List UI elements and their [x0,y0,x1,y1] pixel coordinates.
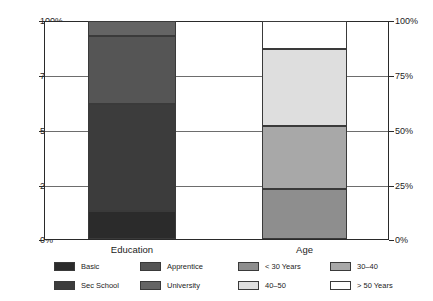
bar-segment-education-university[interactable] [88,21,176,36]
legend-swatch-sec-school [54,281,75,290]
legend-item-university[interactable]: University [140,280,200,291]
bar-education[interactable] [88,21,176,239]
bar-age[interactable] [262,21,347,239]
bar-segment-education-basic[interactable] [88,211,176,239]
bar-segment-age-30-40[interactable] [262,126,347,189]
bar-segment-age-30-years[interactable] [262,189,347,239]
bar-segment-age-50-years[interactable] [262,21,347,49]
legend-swatch-30-40 [330,262,351,271]
legend-item-30-40[interactable]: 30–40 [330,261,378,272]
plot-area [44,21,389,240]
tick-mark-right-0 [389,240,394,241]
legend-item-basic[interactable]: Basic [54,261,99,272]
legend-label-30-40: 30–40 [357,263,378,271]
legend-item-sec-school[interactable]: Sec School [54,280,119,291]
legend-item-apprentice[interactable]: Apprentice [140,261,203,272]
legend-item-over-50-years[interactable]: > 50 Years [330,280,393,291]
legend-swatch-under-30-years [238,262,259,271]
legend-label-under-30-years: < 30 Years [265,263,301,271]
legend-swatch-university [140,281,161,290]
x-label-age: Age [262,244,347,255]
x-label-education: Education [88,244,176,255]
y-tick-right-25: 25% [395,182,413,191]
legend-swatch-apprentice [140,262,161,271]
tick-mark-right-75 [389,76,394,77]
legend-item-40-50[interactable]: 40–50 [238,280,286,291]
legend-item-under-30-years[interactable]: < 30 Years [238,261,301,272]
y-tick-right-50: 50% [395,127,413,136]
legend-label-over-50-years: > 50 Years [357,282,393,290]
tick-mark-right-25 [389,186,394,187]
y-tick-right-75: 75% [395,72,413,81]
y-tick-right-100: 100% [395,17,418,26]
stacked-bar-chart: 100% 75% 50% 25% 0% 100% 75% 50% 25% [0,0,433,301]
legend-label-sec-school: Sec School [81,282,119,290]
legend-label-40-50: 40–50 [265,282,286,290]
bar-segment-age-40-50[interactable] [262,49,347,125]
tick-mark-right-100 [389,21,394,22]
chart-legend: Basic Apprentice < 30 Years 30–40 Sec Sc… [0,261,433,299]
legend-label-university: University [167,282,200,290]
legend-label-basic: Basic [81,263,99,271]
legend-swatch-over-50-years [330,281,351,290]
y-tick-right-0: 0% [395,236,408,245]
legend-swatch-40-50 [238,281,259,290]
legend-label-apprentice: Apprentice [167,263,203,271]
bar-segment-education-apprentice[interactable] [88,36,176,104]
bar-segment-education-sec-school[interactable] [88,104,176,211]
legend-swatch-basic [54,262,75,271]
tick-mark-left-0 [39,240,44,241]
tick-mark-right-50 [389,131,394,132]
